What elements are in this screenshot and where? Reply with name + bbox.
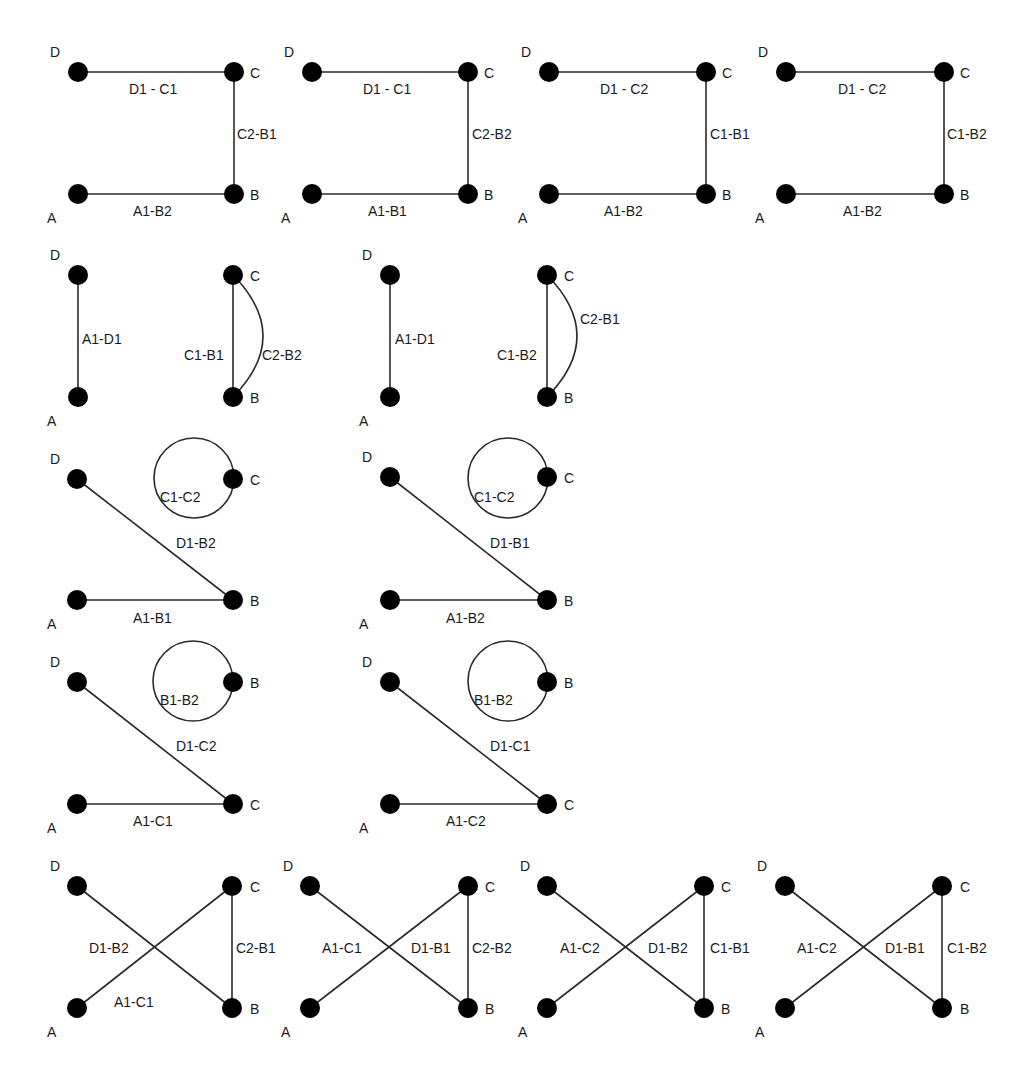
node-b bbox=[458, 184, 478, 204]
node-a bbox=[776, 184, 796, 204]
edge-arc bbox=[233, 275, 263, 397]
node-d bbox=[380, 672, 400, 692]
edge-arc bbox=[547, 275, 577, 397]
edges-layer bbox=[77, 72, 944, 1008]
node-b bbox=[224, 184, 244, 204]
node-d bbox=[67, 469, 87, 489]
node-c bbox=[934, 62, 954, 82]
node-a bbox=[380, 590, 400, 610]
panel-edges bbox=[390, 641, 548, 804]
panel-nodes bbox=[68, 62, 244, 204]
node-c bbox=[537, 265, 557, 285]
panel-edges bbox=[77, 641, 233, 804]
node-c bbox=[694, 876, 714, 896]
node-a bbox=[380, 794, 400, 814]
panel-edges bbox=[786, 72, 944, 194]
panel-nodes bbox=[539, 62, 716, 204]
edge-self-loop bbox=[153, 641, 233, 721]
node-c bbox=[537, 467, 557, 487]
node-d bbox=[67, 876, 87, 896]
node-a bbox=[775, 998, 795, 1018]
node-d bbox=[68, 62, 88, 82]
node-b bbox=[537, 590, 557, 610]
node-d bbox=[539, 62, 559, 82]
panel-nodes bbox=[68, 265, 243, 407]
node-a bbox=[67, 590, 87, 610]
panel-edges bbox=[390, 275, 577, 397]
edge-line bbox=[77, 682, 233, 804]
node-c bbox=[223, 265, 243, 285]
node-a bbox=[302, 184, 322, 204]
nodes-layer bbox=[67, 62, 954, 1018]
diagram-canvas bbox=[0, 0, 1036, 1077]
edge-self-loop bbox=[154, 438, 234, 518]
panel-nodes bbox=[302, 62, 478, 204]
node-d bbox=[775, 876, 795, 896]
node-a bbox=[300, 998, 320, 1018]
node-a bbox=[67, 998, 87, 1018]
node-d bbox=[68, 265, 88, 285]
panel-edges bbox=[77, 438, 234, 600]
node-d bbox=[300, 876, 320, 896]
node-c bbox=[223, 469, 243, 489]
node-c bbox=[224, 62, 244, 82]
node-a bbox=[539, 184, 559, 204]
edge-self-loop bbox=[468, 641, 548, 721]
node-b bbox=[537, 387, 557, 407]
panel-edges bbox=[78, 72, 234, 194]
node-b bbox=[932, 998, 952, 1018]
node-a bbox=[67, 794, 87, 814]
node-c bbox=[223, 794, 243, 814]
node-c bbox=[458, 62, 478, 82]
panel-edges bbox=[310, 886, 468, 1008]
node-c bbox=[537, 794, 557, 814]
panel-edges bbox=[549, 72, 706, 194]
node-a bbox=[68, 387, 88, 407]
node-d bbox=[537, 876, 557, 896]
node-b bbox=[458, 998, 478, 1018]
node-d bbox=[380, 265, 400, 285]
panel-edges bbox=[312, 72, 468, 194]
node-b bbox=[223, 590, 243, 610]
node-b bbox=[694, 998, 714, 1018]
node-d bbox=[67, 672, 87, 692]
panel-edges bbox=[78, 275, 263, 397]
node-b bbox=[222, 998, 242, 1018]
node-b bbox=[537, 672, 557, 692]
node-c bbox=[458, 876, 478, 896]
node-b bbox=[934, 184, 954, 204]
node-a bbox=[537, 998, 557, 1018]
panel-edges bbox=[390, 438, 548, 600]
node-b bbox=[223, 672, 243, 692]
node-c bbox=[932, 876, 952, 896]
node-d bbox=[380, 467, 400, 487]
node-c bbox=[222, 876, 242, 896]
node-c bbox=[696, 62, 716, 82]
node-b bbox=[223, 387, 243, 407]
panel-edges bbox=[547, 886, 704, 1008]
node-a bbox=[380, 387, 400, 407]
edge-self-loop bbox=[468, 438, 548, 518]
node-b bbox=[696, 184, 716, 204]
node-a bbox=[68, 184, 88, 204]
edge-line bbox=[390, 682, 547, 804]
panel-nodes bbox=[380, 265, 557, 407]
node-d bbox=[302, 62, 322, 82]
panel-nodes bbox=[776, 62, 954, 204]
edge-line bbox=[77, 479, 233, 600]
node-d bbox=[776, 62, 796, 82]
edge-line bbox=[390, 477, 547, 600]
panel-edges bbox=[77, 886, 232, 1008]
panel-edges bbox=[785, 886, 942, 1008]
